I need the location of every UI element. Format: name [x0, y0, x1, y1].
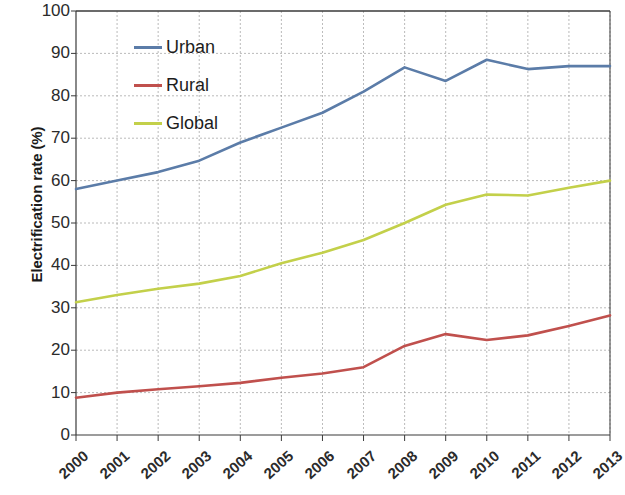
x-tick-label: 2005	[250, 447, 297, 492]
x-tick-label: 2007	[332, 447, 379, 492]
legend-label-urban: Urban	[166, 37, 215, 58]
x-tick-label: 2000	[44, 447, 91, 492]
legend-swatch-global	[134, 122, 162, 125]
legend-label-global: Global	[166, 113, 218, 134]
x-tick-label: 2006	[291, 447, 338, 492]
x-tick-label: 2012	[537, 447, 584, 492]
x-tick-label: 2008	[373, 447, 420, 492]
x-tick-label: 2009	[414, 447, 461, 492]
legend-swatch-urban	[134, 46, 162, 49]
x-tick-label: 2001	[85, 447, 132, 492]
x-tick-label: 2010	[455, 447, 502, 492]
x-tick-label: 2011	[496, 447, 543, 492]
x-tick-label: 2004	[209, 447, 256, 492]
x-tick-label: 2013	[578, 447, 625, 492]
legend-label-rural: Rural	[166, 75, 209, 96]
x-tick-label: 2003	[168, 447, 215, 492]
x-tick-label: 2002	[126, 447, 173, 492]
legend-swatch-rural	[134, 84, 162, 87]
